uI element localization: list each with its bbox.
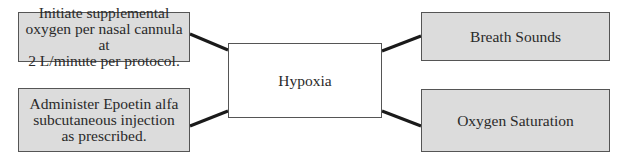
text-line: as prescribed.: [30, 128, 179, 144]
intervention-epoetin-text: Administer Epoetin alfa subcutaneous inj…: [30, 96, 179, 144]
connector-right-top: [382, 36, 421, 51]
connector-right-bottom: [382, 111, 421, 126]
text-line: Administer Epoetin alfa: [30, 96, 179, 112]
text-line: 2 L/minute per protocol.: [19, 53, 189, 69]
assessment-oxygen-saturation-label: Oxygen Saturation: [457, 113, 574, 129]
connector-left-bottom: [190, 111, 228, 126]
intervention-oxygen-text: Initiate supplemental oxygen per nasal c…: [19, 5, 189, 69]
connector-left-top: [190, 34, 228, 50]
assessment-box-breath-sounds: Breath Sounds: [421, 12, 610, 61]
center-label: Hypoxia: [278, 73, 331, 89]
assessment-breath-sounds-label: Breath Sounds: [470, 29, 561, 45]
text-line: subcutaneous injection: [30, 112, 179, 128]
assessment-box-oxygen-saturation: Oxygen Saturation: [421, 89, 610, 152]
center-box-hypoxia: Hypoxia: [228, 43, 382, 118]
intervention-box-oxygen: Initiate supplemental oxygen per nasal c…: [18, 12, 190, 62]
text-line: oxygen per nasal cannula at: [19, 21, 189, 53]
text-line: Initiate supplemental: [19, 5, 189, 21]
intervention-box-epoetin: Administer Epoetin alfa subcutaneous inj…: [18, 88, 190, 152]
